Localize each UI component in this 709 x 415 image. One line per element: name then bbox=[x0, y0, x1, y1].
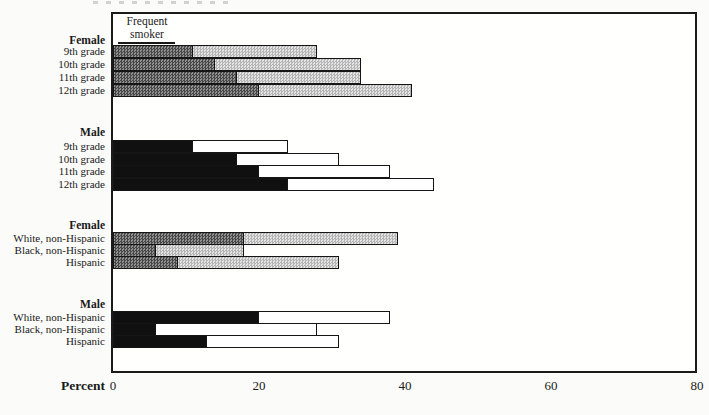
bar-total-remainder bbox=[243, 232, 398, 245]
bar-total-remainder bbox=[206, 335, 339, 348]
row-label: 12th grade bbox=[0, 178, 105, 191]
row-label: 12th grade bbox=[0, 84, 105, 97]
row-label: Hispanic bbox=[0, 335, 105, 348]
x-tick-label: 80 bbox=[675, 378, 709, 393]
bar-total-remainder bbox=[258, 165, 391, 178]
row-label: 10th grade bbox=[0, 58, 105, 71]
group-header-male-3: Male bbox=[0, 298, 105, 311]
bar-frequent-smoker bbox=[113, 71, 237, 84]
row-label: 11th grade bbox=[0, 71, 105, 84]
bar-frequent-smoker bbox=[113, 140, 193, 153]
x-axis-title: Percent bbox=[0, 378, 105, 393]
legend-underline bbox=[118, 42, 175, 44]
bar-frequent-smoker bbox=[113, 256, 179, 269]
bar-frequent-smoker bbox=[113, 165, 259, 178]
group-header-male-1: Male bbox=[0, 126, 105, 139]
bar-total-remainder bbox=[214, 58, 362, 71]
smoking-bar-chart-figure: Frequent smoker Female9th grade10th grad… bbox=[0, 0, 709, 415]
legend-line1: Frequent bbox=[114, 15, 180, 28]
bar-total-remainder bbox=[236, 71, 362, 84]
bar-total-remainder bbox=[287, 178, 435, 191]
x-tick-label: 60 bbox=[529, 378, 573, 393]
bar-frequent-smoker bbox=[113, 178, 288, 191]
x-tick-label: 40 bbox=[383, 378, 427, 393]
x-tick-label: 20 bbox=[237, 378, 281, 393]
group-header-female-2: Female bbox=[0, 219, 105, 232]
bar-total-remainder bbox=[177, 256, 339, 269]
row-label: 11th grade bbox=[0, 165, 105, 178]
bar-frequent-smoker bbox=[113, 84, 259, 97]
row-label: 9th grade bbox=[0, 140, 105, 153]
bar-frequent-smoker bbox=[113, 335, 208, 348]
bar-total-remainder bbox=[192, 45, 318, 58]
legend-line2: smoker bbox=[114, 28, 180, 41]
bar-frequent-smoker bbox=[113, 58, 215, 71]
row-label: 9th grade bbox=[0, 45, 105, 58]
bar-total-remainder bbox=[192, 140, 288, 153]
cropped-title-scan-artifact bbox=[93, 1, 231, 4]
row-label: Hispanic bbox=[0, 256, 105, 269]
bar-frequent-smoker bbox=[113, 45, 193, 58]
bar-total-remainder bbox=[258, 84, 413, 97]
legend-frequent-smoker: Frequent smoker bbox=[114, 15, 180, 41]
